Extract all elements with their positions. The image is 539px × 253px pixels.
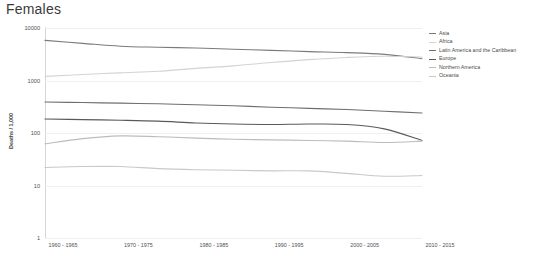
legend-label: Latin America and the Caribbean — [439, 47, 516, 55]
legend-item-oceania[interactable]: Oceania — [429, 72, 537, 80]
x-tick-label: 1970 - 1975 — [124, 242, 153, 248]
x-tick-label: 1980 - 1985 — [199, 242, 228, 248]
legend-item-latin-america-and-the-caribbean[interactable]: Latin America and the Caribbean — [429, 47, 537, 55]
series-line-northern-america — [45, 136, 422, 144]
legend-swatch-icon — [429, 42, 436, 43]
legend-swatch-icon — [429, 59, 436, 60]
legend-label: Europe — [439, 55, 456, 63]
series-line-oceania — [45, 166, 422, 176]
gridline — [45, 238, 422, 239]
series-line-latin-america-and-the-caribbean — [45, 102, 422, 113]
legend-item-asia[interactable]: Asia — [429, 30, 537, 38]
x-tick-label: 1960 - 1965 — [49, 242, 78, 248]
y-tick-label: 10 — [0, 183, 40, 189]
legend-label: Africa — [439, 38, 453, 46]
legend-item-africa[interactable]: Africa — [429, 38, 537, 46]
legend-swatch-icon — [429, 76, 436, 77]
series-line-asia — [45, 40, 422, 58]
chart-page: Females Deaths / 1,000 100001000100101 1… — [0, 0, 539, 253]
y-tick-label: 1000 — [0, 78, 40, 84]
legend-item-europe[interactable]: Europe — [429, 55, 537, 63]
legend-swatch-icon — [429, 67, 436, 68]
y-tick-label: 10000 — [0, 25, 40, 31]
legend-label: Asia — [439, 30, 449, 38]
y-tick-label: 100 — [0, 130, 40, 136]
legend-label: Oceania — [439, 72, 459, 80]
legend-swatch-icon — [429, 33, 436, 34]
legend-swatch-icon — [429, 50, 436, 51]
chart-series-lines — [45, 28, 422, 238]
x-tick-label: 2000 - 2005 — [350, 242, 379, 248]
chart-legend: AsiaAfricaLatin America and the Caribbea… — [429, 30, 537, 81]
legend-label: Northern America — [439, 64, 480, 72]
x-tick-label: 1990 - 1995 — [275, 242, 304, 248]
y-tick-label: 1 — [0, 235, 40, 241]
legend-item-northern-america[interactable]: Northern America — [429, 64, 537, 72]
series-line-africa — [45, 56, 422, 76]
y-axis-ticks: 100001000100101 — [0, 0, 42, 253]
x-tick-label: 2010 - 2015 — [426, 242, 455, 248]
